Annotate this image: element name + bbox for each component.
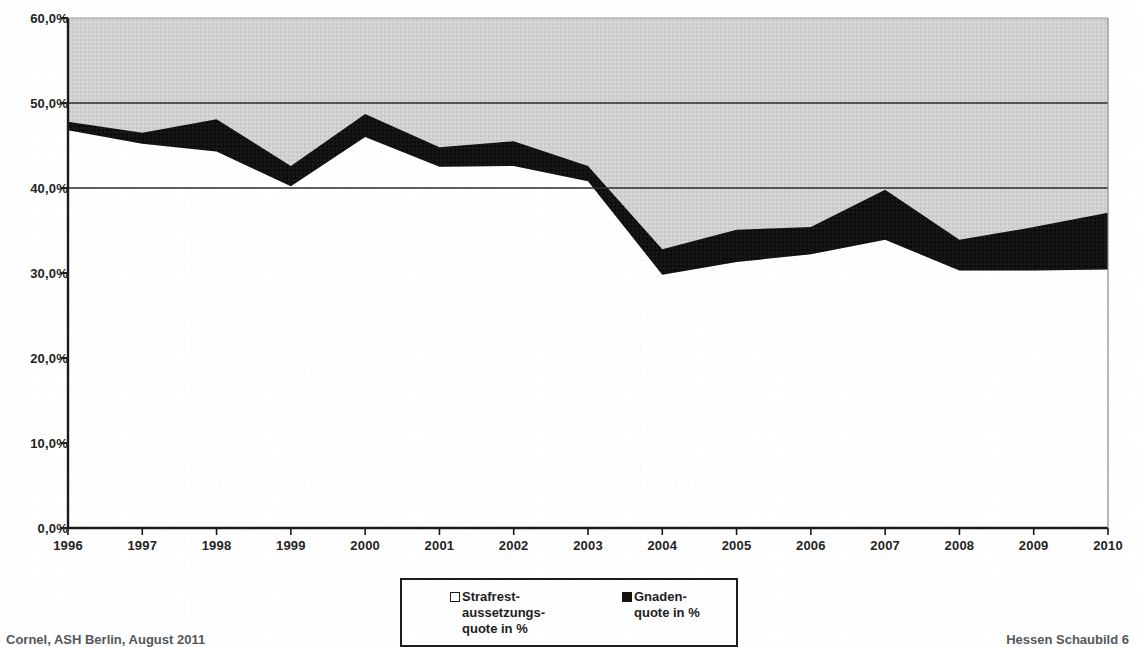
y-axis-tick-label: 40,0% xyxy=(4,182,68,195)
footer-source-note: Cornel, ASH Berlin, August 2011 xyxy=(6,632,205,647)
legend-item-gnadenquote: Gnaden- quote in % xyxy=(622,589,700,645)
y-axis-tick-label: 0,0% xyxy=(4,522,68,535)
y-axis-tick-label: 20,0% xyxy=(4,352,68,365)
y-axis-tick-label: 50,0% xyxy=(4,97,68,110)
y-axis-tick-label: 30,0% xyxy=(4,267,68,280)
x-axis-tick-label: 1996 xyxy=(40,538,96,553)
x-axis-tick-label: 1999 xyxy=(263,538,319,553)
hollow-square-icon xyxy=(450,592,460,602)
y-axis-tick-label: 10,0% xyxy=(4,437,68,450)
footer-figure-label: Hessen Schaubild 6 xyxy=(1006,632,1129,647)
x-axis-tick-label: 1997 xyxy=(114,538,170,553)
x-axis-tick-label: 2004 xyxy=(634,538,690,553)
x-axis-tick-label: 2010 xyxy=(1080,538,1136,553)
x-axis-tick-label: 2000 xyxy=(337,538,393,553)
x-axis-tick-label: 2005 xyxy=(709,538,765,553)
y-axis-tick-label: 60,0% xyxy=(4,12,68,25)
stacked-area-chart: 0,0%10,0%20,0%30,0%40,0%50,0%60,0% 19961… xyxy=(0,0,1137,580)
x-axis-tick-label: 2008 xyxy=(931,538,987,553)
x-axis-tick-label: 2009 xyxy=(1006,538,1062,553)
chart-legend: Strafrest- aussetzungs- quote in % Gnade… xyxy=(400,578,738,647)
x-axis-tick-label: 2006 xyxy=(783,538,839,553)
x-axis-tick-label: 2001 xyxy=(411,538,467,553)
x-axis-tick-label: 2002 xyxy=(486,538,542,553)
x-axis-tick-label: 2007 xyxy=(857,538,913,553)
chart-plot-area xyxy=(0,0,1137,580)
filled-square-icon xyxy=(622,592,632,602)
legend-label-gnadenquote: Gnaden- quote in % xyxy=(634,589,700,621)
legend-item-strafrestaussetzungsquote: Strafrest- aussetzungs- quote in % xyxy=(450,589,600,645)
x-axis-tick-label: 1998 xyxy=(189,538,245,553)
legend-label-strafrestaussetzungsquote: Strafrest- aussetzungs- quote in % xyxy=(462,589,545,637)
x-axis-tick-label: 2003 xyxy=(560,538,616,553)
